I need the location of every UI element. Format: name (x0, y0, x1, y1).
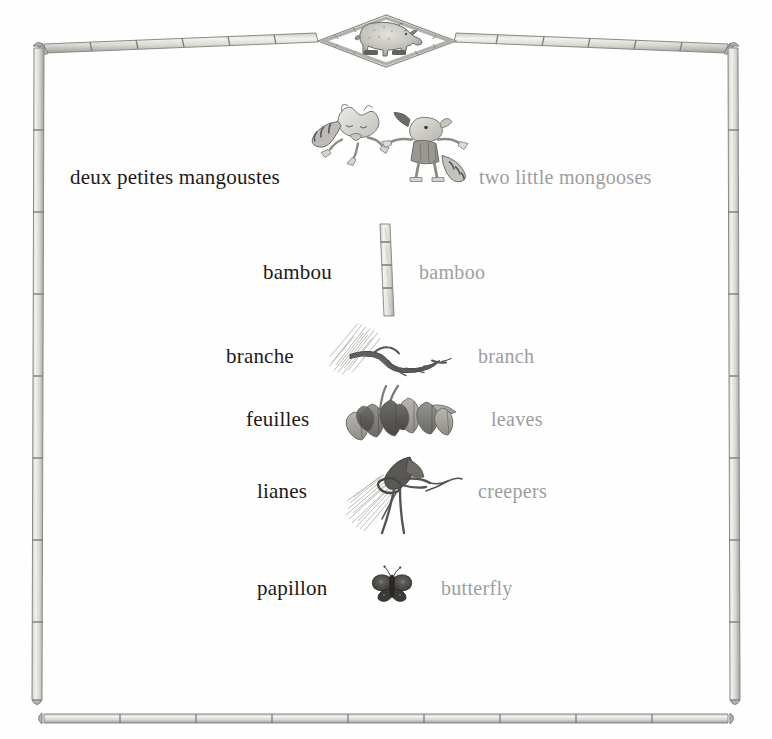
english-term-creepers: creepers (478, 481, 547, 501)
english-term-branch: branch (478, 346, 534, 366)
creeper-vines-illustration (344, 453, 464, 535)
english-term-bamboo: bamboo (419, 262, 485, 282)
french-term-branche: branche (226, 346, 294, 367)
leaf-cluster-illustration (332, 384, 464, 446)
vocabulary-list: deux petites mangoustes two little mongo… (0, 0, 772, 739)
french-term-feuilles: feuilles (246, 409, 309, 430)
english-term-mongooses: two little mongooses (479, 167, 652, 187)
picture-book-page: deux petites mangoustes two little mongo… (0, 0, 772, 739)
pencil-hatching (329, 324, 380, 375)
bamboo-stalk-illustration (363, 222, 409, 318)
french-term-lianes: lianes (257, 481, 307, 502)
tree-branch-illustration (328, 323, 456, 378)
french-term-mangoustes: deux petites mangoustes (70, 167, 280, 188)
english-term-leaves: leaves (491, 409, 543, 429)
english-term-butterfly: butterfly (441, 578, 513, 598)
mongoose-left-icon (312, 104, 389, 165)
butterfly-illustration (370, 563, 414, 605)
french-term-papillon: papillon (257, 578, 327, 599)
mongoose-right-icon (382, 113, 468, 182)
two-mongooses-illustration (302, 96, 482, 221)
french-term-bambou: bambou (263, 262, 332, 283)
